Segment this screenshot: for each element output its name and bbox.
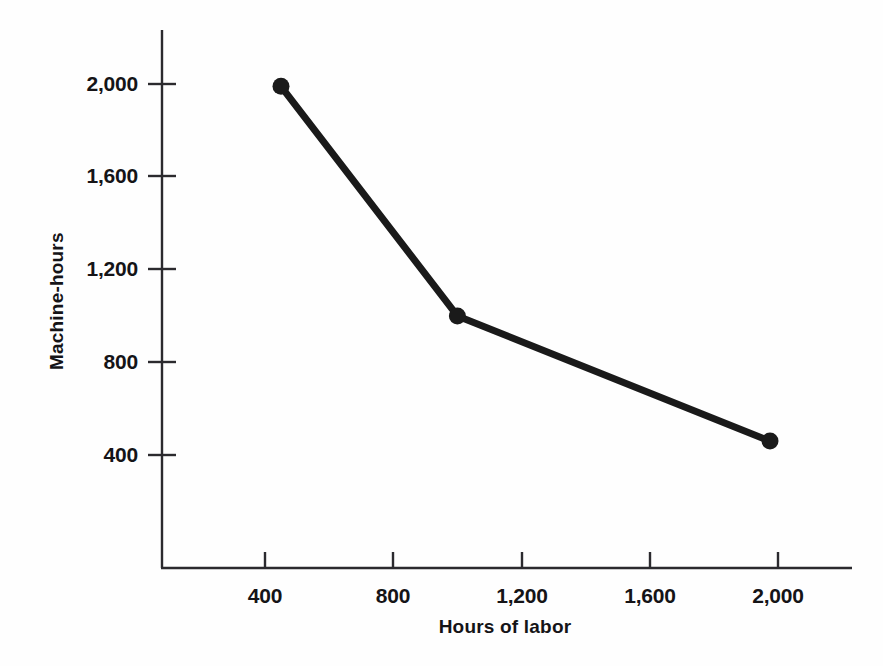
x-axis-ticks: [265, 552, 778, 568]
y-tick-label-2000: 2,000: [60, 72, 138, 96]
data-point-marker: [449, 307, 466, 324]
x-tick-label-1600: 1,600: [624, 584, 676, 608]
chart-plot-area: [0, 0, 883, 666]
data-point-marker: [762, 433, 779, 450]
x-axis-title: Hours of labor: [439, 616, 572, 638]
data-point-marker: [273, 78, 290, 95]
x-tick-label-2000: 2,000: [752, 584, 804, 608]
y-tick-label-400: 400: [60, 443, 138, 467]
y-tick-label-1600: 1,600: [60, 164, 138, 188]
x-tick-label-1200: 1,200: [496, 584, 548, 608]
y-axis-title: Machine-hours: [46, 232, 68, 370]
chart-figure: 2,000 1,600 1,200 800 400 400 800 1,200 …: [0, 0, 883, 666]
y-tick-label-800: 800: [60, 350, 138, 374]
data-line-isoquant: [281, 86, 770, 441]
x-tick-label-400: 400: [248, 584, 282, 608]
y-tick-label-1200: 1,200: [60, 257, 138, 281]
x-tick-label-800: 800: [376, 584, 410, 608]
data-point-markers: [273, 78, 779, 450]
